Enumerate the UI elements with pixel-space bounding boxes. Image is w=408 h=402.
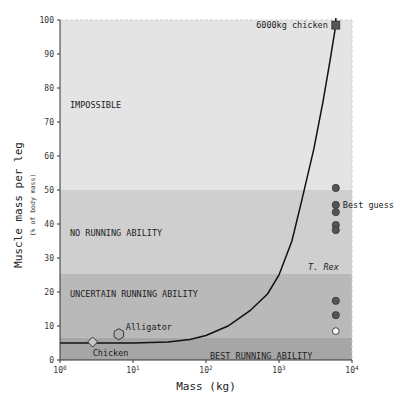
y-tick-label: 70 [44,118,54,127]
marker-t-rex [332,184,339,191]
marker-t-rex-hollow [332,328,339,335]
annotation-t-rex: T. Rex [308,262,340,272]
x-tick-label: 101 [126,364,140,375]
marker-6000kg-chicken [332,21,340,29]
marker-alligator [114,329,124,340]
y-axis-subtitle: (% of body mass) [29,174,37,237]
y-tick-label: 0 [49,356,54,365]
y-tick-label: 50 [44,186,54,195]
band-label-uncertain-running-ability: UNCERTAIN RUNNING ABILITY [70,289,198,299]
marker-t-rex [332,209,339,216]
y-tick-label: 90 [44,50,54,59]
y-tick-label: 100 [40,16,55,25]
marker-t-rex [332,227,339,234]
x-tick-label: 104 [345,364,359,375]
annotation-best-guess: Best guess [343,200,394,210]
y-tick-label: 20 [44,288,54,297]
y-tick-label: 30 [44,254,54,263]
region-bands [60,20,352,360]
y-tick-label: 10 [44,322,54,331]
x-tick-label: 103 [272,364,286,375]
band-label-no-running-ability: NO RUNNING ABILITY [70,228,162,238]
y-tick-label: 80 [44,84,54,93]
marker-t-rex [332,297,339,304]
y-tick-label: 40 [44,220,54,229]
annotation-chicken: Chicken [93,348,129,358]
x-tick-label: 102 [199,364,213,375]
marker-t-rex [332,201,339,208]
band-uncertain-running-ability [60,274,352,338]
chart: IMPOSSIBLENO RUNNING ABILITYUNCERTAIN RU… [0,0,408,402]
y-tick-label: 60 [44,152,54,161]
x-tick-label: 100 [53,364,67,375]
y-axis-title: Muscle mass per leg [12,142,25,268]
x-axis-title: Mass (kg) [176,380,236,393]
band-label-impossible: IMPOSSIBLE [70,100,121,110]
annotation-6000kg-chicken: 6000kg chicken [256,20,328,30]
annotation-alligator: Alligator [126,322,172,332]
band-label-best-running-ability: BEST RUNNING ABILITY [210,351,312,361]
marker-t-rex [332,312,339,319]
